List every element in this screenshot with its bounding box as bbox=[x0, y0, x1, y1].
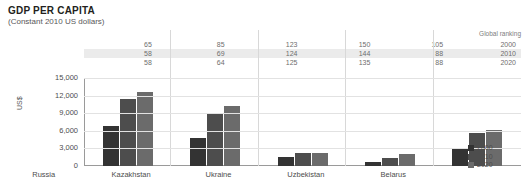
bar-belarus-2000 bbox=[452, 149, 468, 166]
bar-kazakhstan-2000 bbox=[190, 138, 206, 166]
y-axis-tick: 3,000 bbox=[18, 143, 78, 152]
gridline bbox=[84, 131, 521, 132]
bar-ukraine-2000 bbox=[278, 157, 294, 166]
legend-swatch-icon bbox=[468, 145, 474, 151]
legend-swatch-icon bbox=[468, 162, 474, 168]
legend-label: 2000 bbox=[477, 144, 493, 153]
y-axis-tick: 0 bbox=[18, 161, 78, 170]
y-axis-tick: 9,000 bbox=[18, 108, 78, 117]
bar-ukraine-2010 bbox=[295, 153, 311, 166]
rank-cell: 65 bbox=[84, 40, 157, 49]
gridline bbox=[84, 148, 521, 149]
global-ranking-header: Global ranking bbox=[469, 30, 521, 38]
bar-uzbekistan-2000 bbox=[365, 162, 381, 166]
rank-cell: 88 bbox=[375, 58, 448, 67]
rank-cell: 123 bbox=[230, 40, 303, 49]
page-subtitle: (Constant 2010 US dollars) bbox=[8, 17, 105, 26]
x-axis-label-kazakhstan: Kazakhstan bbox=[87, 170, 174, 179]
page-title: GDP PER CAPITA bbox=[8, 5, 95, 16]
x-axis-label-ukraine: Ukraine bbox=[175, 170, 262, 179]
bar-groups bbox=[84, 78, 521, 166]
y-axis-tick: 15,000 bbox=[18, 73, 78, 82]
bar-group bbox=[259, 78, 346, 166]
x-axis-label-russia: Russia bbox=[0, 170, 87, 179]
rank-cell: 144 bbox=[302, 49, 375, 58]
legend-label: 2010 bbox=[477, 153, 493, 162]
rank-cell: 125 bbox=[230, 58, 303, 67]
gridline bbox=[84, 78, 521, 79]
y-axis-tick: 12,000 bbox=[18, 91, 78, 100]
bar-kazakhstan-2020 bbox=[224, 106, 240, 166]
gdp-per-capita-chart: GDP PER CAPITA (Constant 2010 US dollars… bbox=[0, 0, 529, 195]
rank-cell: 69 bbox=[157, 49, 230, 58]
bar-group bbox=[346, 78, 433, 166]
bar-group bbox=[171, 78, 258, 166]
rank-cell: 64 bbox=[157, 58, 230, 67]
rank-year-label: 2020 bbox=[448, 58, 521, 67]
bar-russia-2020 bbox=[137, 92, 153, 166]
bar-ukraine-2020 bbox=[312, 153, 328, 166]
legend-swatch-icon bbox=[468, 154, 474, 160]
table-row: 58 69 124 144 88 2010 bbox=[84, 49, 521, 58]
y-axis-tick: 6,000 bbox=[18, 126, 78, 135]
legend-item-2000: 2000 bbox=[468, 144, 493, 153]
x-axis-label-uzbekistan: Uzbekistan bbox=[262, 170, 349, 179]
table-row: 65 85 123 150 105 2000 bbox=[84, 40, 521, 49]
legend: 200020102020 bbox=[468, 144, 493, 170]
bar-group bbox=[84, 78, 171, 166]
rank-cell: 88 bbox=[375, 49, 448, 58]
gridline bbox=[84, 113, 521, 114]
x-axis-label-belarus: Belarus bbox=[350, 170, 437, 179]
rank-year-label: 2010 bbox=[448, 49, 521, 58]
rank-year-label: 2000 bbox=[448, 40, 521, 49]
rank-cell: 135 bbox=[302, 58, 375, 67]
rank-cell: 58 bbox=[84, 58, 157, 67]
table-row: 58 64 125 135 88 2020 bbox=[84, 58, 521, 67]
bar-uzbekistan-2010 bbox=[382, 158, 398, 166]
global-ranking-table: Global ranking 65 85 123 150 105 2000 58… bbox=[84, 30, 521, 73]
legend-item-2020: 2020 bbox=[468, 161, 493, 170]
bar-russia-2010 bbox=[120, 99, 136, 166]
plot-area: 03,0006,0009,00012,00015,000 bbox=[84, 78, 521, 166]
rank-cell: 124 bbox=[230, 49, 303, 58]
rank-cell: 150 bbox=[302, 40, 375, 49]
legend-label: 2020 bbox=[477, 161, 493, 170]
rank-cell: 105 bbox=[375, 40, 448, 49]
rank-cell: 85 bbox=[157, 40, 230, 49]
bar-kazakhstan-2010 bbox=[207, 114, 223, 166]
legend-item-2010: 2010 bbox=[468, 153, 493, 162]
bar-uzbekistan-2020 bbox=[399, 154, 415, 166]
bar-russia-2000 bbox=[103, 126, 119, 166]
rank-cell: 58 bbox=[84, 49, 157, 58]
gridline bbox=[84, 96, 521, 97]
